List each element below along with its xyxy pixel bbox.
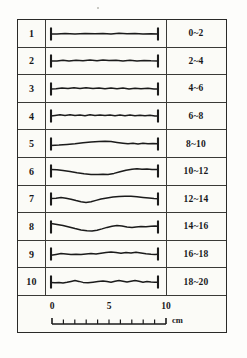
table-row: 4 6~8 bbox=[18, 103, 226, 131]
row-number: 5 bbox=[18, 138, 45, 149]
profile-trace bbox=[45, 240, 166, 268]
depth-range-label: 16~18 bbox=[166, 249, 226, 259]
column-divider-right bbox=[166, 130, 167, 157]
depth-range-label: 2~4 bbox=[166, 56, 226, 66]
depth-range-label: 18~20 bbox=[166, 277, 226, 287]
table-row: 3 4~6 bbox=[18, 75, 226, 103]
profile-line bbox=[51, 252, 158, 255]
column-divider-right bbox=[166, 213, 167, 240]
profile-line bbox=[51, 196, 158, 202]
profile-svg bbox=[45, 102, 166, 130]
table-row: 8 14~16 bbox=[18, 213, 226, 241]
profile-line bbox=[51, 141, 158, 145]
row-number: 6 bbox=[18, 166, 45, 177]
profile-trace bbox=[45, 20, 166, 48]
profile-trace bbox=[45, 102, 166, 130]
row-number: 4 bbox=[18, 111, 45, 122]
core-profile-figure: 1 0~2 2 2~4 3 bbox=[17, 19, 227, 333]
column-divider-right bbox=[166, 186, 167, 213]
profile-trace bbox=[45, 268, 166, 296]
row-number: 2 bbox=[18, 55, 45, 66]
table-row: 7 12~14 bbox=[18, 186, 226, 214]
depth-range-label: 6~8 bbox=[166, 111, 226, 121]
column-divider-right bbox=[166, 103, 167, 130]
ruler-ticks bbox=[52, 318, 166, 324]
scale-row: 0510 cm bbox=[18, 296, 226, 335]
profile-trace bbox=[45, 213, 166, 241]
profile-svg bbox=[45, 185, 166, 213]
depth-range-label: 4~6 bbox=[166, 83, 226, 93]
profile-svg bbox=[45, 268, 166, 296]
depth-range-label: 14~16 bbox=[166, 221, 226, 231]
depth-range-label: 8~10 bbox=[166, 139, 226, 149]
profile-trace bbox=[45, 75, 166, 103]
table-row: 9 16~18 bbox=[18, 241, 226, 269]
profile-svg bbox=[45, 130, 166, 158]
profile-trace bbox=[45, 157, 166, 185]
column-divider-right bbox=[166, 268, 167, 295]
profile-svg bbox=[45, 75, 166, 103]
profile-trace bbox=[45, 130, 166, 158]
scan-speck bbox=[97, 7, 99, 9]
depth-range-label: 10~12 bbox=[166, 166, 226, 176]
table-row: 5 8~10 bbox=[18, 130, 226, 158]
depth-range-label: 12~14 bbox=[166, 194, 226, 204]
profile-svg bbox=[45, 47, 166, 75]
profile-line bbox=[51, 87, 158, 88]
unit-label: cm bbox=[172, 315, 183, 325]
profile-svg bbox=[45, 240, 166, 268]
profile-svg bbox=[45, 157, 166, 185]
table-row: 1 0~2 bbox=[18, 20, 226, 48]
profile-line bbox=[51, 169, 158, 175]
profile-line bbox=[51, 280, 158, 282]
profile-trace bbox=[45, 47, 166, 75]
profile-trace bbox=[45, 185, 166, 213]
row-number: 1 bbox=[18, 28, 45, 39]
column-divider-right bbox=[166, 20, 167, 47]
profile-svg bbox=[45, 213, 166, 241]
row-number: 8 bbox=[18, 221, 45, 232]
profile-line bbox=[51, 223, 158, 230]
profile-line bbox=[51, 33, 158, 34]
table-row: 6 10~12 bbox=[18, 158, 226, 186]
column-divider-right bbox=[166, 75, 167, 102]
column-divider-right bbox=[166, 158, 167, 185]
row-number: 10 bbox=[18, 276, 45, 287]
row-number: 7 bbox=[18, 193, 45, 204]
table-row: 2 2~4 bbox=[18, 48, 226, 76]
depth-range-label: 0~2 bbox=[166, 28, 226, 38]
ruler-tick-label: 0 bbox=[50, 301, 55, 311]
row-number: 9 bbox=[18, 249, 45, 260]
scale-bar: 0510 cm bbox=[18, 296, 226, 335]
ruler-tick-label: 5 bbox=[107, 301, 112, 311]
table-row: 10 18~20 bbox=[18, 268, 226, 296]
column-divider-right bbox=[166, 48, 167, 75]
column-divider-right bbox=[166, 241, 167, 268]
profile-svg bbox=[45, 20, 166, 48]
row-number: 3 bbox=[18, 83, 45, 94]
ruler-tick-label: 10 bbox=[161, 301, 171, 311]
profile-line bbox=[51, 115, 158, 116]
profile-line bbox=[51, 60, 158, 61]
